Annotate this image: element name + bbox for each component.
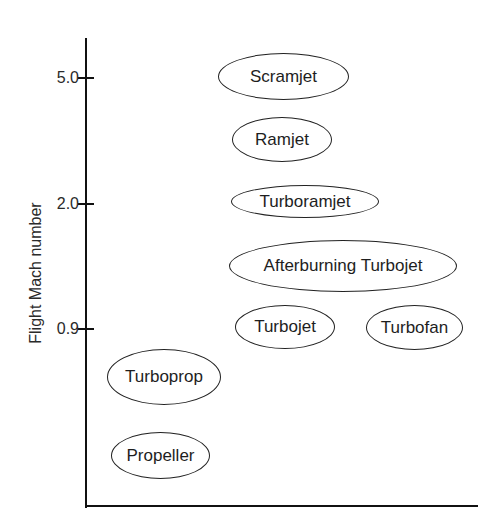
engine-label: Turboramjet bbox=[259, 193, 350, 211]
tick-label-5-0: 5.0 bbox=[39, 70, 79, 86]
engine-label: Turboprop bbox=[125, 368, 203, 386]
engine-afterburning-turbojet: Afterburning Turbojet bbox=[229, 240, 457, 292]
x-axis-line bbox=[86, 505, 478, 507]
engine-turboprop: Turboprop bbox=[107, 349, 221, 405]
engine-turbofan: Turbofan bbox=[366, 305, 463, 350]
engine-turboramjet: Turboramjet bbox=[231, 185, 379, 218]
propulsion-mach-diagram: Flight Mach number 5.0 2.0 0.9 Scramjet … bbox=[0, 0, 494, 532]
engine-label: Turbojet bbox=[254, 318, 316, 336]
engine-label: Scramjet bbox=[250, 68, 317, 86]
engine-label: Ramjet bbox=[255, 131, 309, 149]
tick-label-2-0: 2.0 bbox=[39, 196, 79, 212]
engine-label: Turbofan bbox=[381, 319, 448, 337]
engine-label: Afterburning Turbojet bbox=[264, 257, 423, 275]
engine-turbojet: Turbojet bbox=[235, 305, 335, 349]
engine-propeller: Propeller bbox=[111, 432, 210, 479]
engine-scramjet: Scramjet bbox=[218, 53, 349, 100]
tick-label-0-9: 0.9 bbox=[39, 321, 79, 337]
engine-label: Propeller bbox=[126, 447, 194, 465]
tick-mark-2-0 bbox=[78, 203, 94, 205]
tick-mark-0-9 bbox=[78, 328, 94, 330]
tick-mark-5-0 bbox=[78, 77, 94, 79]
engine-ramjet: Ramjet bbox=[232, 117, 332, 162]
y-axis-line bbox=[85, 38, 87, 508]
